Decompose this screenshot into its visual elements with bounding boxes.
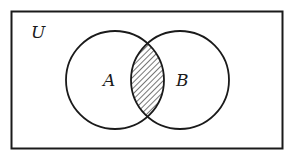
set-b-label: B: [175, 70, 189, 90]
universe-label: U: [31, 22, 46, 42]
set-a-label: A: [101, 70, 115, 90]
venn-diagram: U A B: [0, 0, 293, 154]
